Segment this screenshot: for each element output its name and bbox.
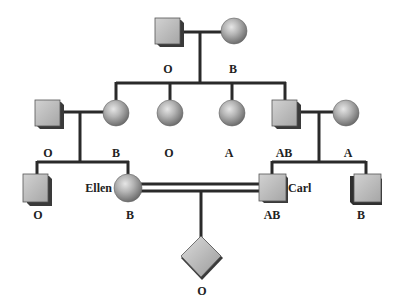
circle-female-symbol-gp — [221, 18, 247, 44]
blood-type-label: O — [43, 146, 52, 160]
blood-type-label: B — [112, 146, 120, 160]
blood-type-label: B — [357, 208, 365, 222]
male-carl — [259, 174, 288, 203]
blood-type-label: O — [164, 146, 173, 160]
blood-type-label: B — [126, 208, 134, 222]
circle-female-ellen — [114, 174, 142, 202]
person-name-ellen: Ellen — [85, 181, 112, 195]
circle-female-symbol — [157, 100, 183, 126]
circle-female-symbol — [333, 100, 359, 126]
person-name-carl: Carl — [288, 181, 312, 195]
blood-type-label: AB — [264, 208, 281, 222]
connector-lines — [37, 32, 366, 238]
blood-type-label: O — [163, 62, 172, 76]
square-male-symbol — [155, 18, 180, 44]
diamond-symbol — [181, 236, 221, 277]
square-male-symbol — [35, 100, 60, 126]
blood-type-label: A — [225, 146, 234, 160]
male-left-son — [23, 174, 52, 206]
pedigree-diagram: O B O B O A AB A Ellen Carl O B AB B O — [0, 0, 403, 303]
male-son — [272, 100, 301, 129]
blood-type-label: O — [197, 284, 206, 298]
male-right-son — [350, 174, 382, 205]
square-male-symbol — [259, 174, 286, 201]
square-male-symbol — [272, 100, 297, 126]
male-gp — [155, 18, 184, 47]
diamond-unknown-sex-offspring — [181, 236, 223, 280]
square-male-symbol — [23, 174, 48, 202]
blood-type-label: A — [344, 146, 353, 160]
blood-type-label: AB — [276, 146, 293, 160]
square-male-symbol — [354, 174, 381, 202]
blood-type-label: O — [33, 208, 42, 222]
circle-female-symbol — [219, 100, 245, 126]
blood-type-label: B — [229, 62, 237, 76]
circle-female-symbol — [103, 100, 129, 126]
male-left-husband — [35, 100, 64, 129]
